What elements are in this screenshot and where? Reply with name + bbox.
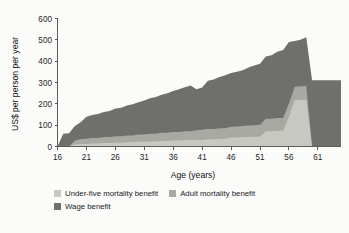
y-axis-tick-label: 200 <box>38 100 52 109</box>
legend-label: Adult mortality benefit <box>180 188 255 199</box>
legend-item-under-five-mortality-benefit[interactable]: Under-five mortality benefit <box>54 188 158 199</box>
x-axis-tick-label: 56 <box>284 153 294 162</box>
legend-row-2: Wage benefit <box>54 201 346 212</box>
x-axis-tick-label: 16 <box>53 153 63 162</box>
chart-areas <box>58 37 342 146</box>
x-axis-tick-label: 21 <box>82 153 92 162</box>
legend-item-wage-benefit[interactable]: Wage benefit <box>54 201 111 212</box>
x-axis-tick-label: 26 <box>111 153 121 162</box>
y-axis-tick-label: 500 <box>38 36 52 45</box>
y-axis-tick-label: 100 <box>38 121 52 130</box>
legend-label: Wage benefit <box>65 201 111 212</box>
x-axis-title: Age (years) <box>171 170 216 180</box>
x-axis-tick-label: 61 <box>313 153 323 162</box>
legend-row-1: Under-five mortality benefit Adult morta… <box>54 188 346 199</box>
legend-label: Under-five mortality benefit <box>65 188 158 199</box>
y-axis-tick-label: 0 <box>47 143 52 152</box>
y-axis-tick-label: 600 <box>38 15 52 24</box>
x-axis-tick-label: 36 <box>169 153 179 162</box>
legend-swatch-icon <box>54 190 61 197</box>
y-axis-tick-label: 300 <box>38 79 52 88</box>
y-axis-tick-label: 400 <box>38 57 52 66</box>
legend-swatch-icon <box>54 203 61 210</box>
legend-item-adult-mortality-benefit[interactable]: Adult mortality benefit <box>169 188 255 199</box>
chart-legend: Under-five mortality benefit Adult morta… <box>54 188 346 214</box>
x-axis-tick-label: 51 <box>255 153 265 162</box>
x-axis-tick-label: 46 <box>227 153 237 162</box>
legend-swatch-icon <box>169 190 176 197</box>
y-axis-title: US$ per person per year <box>10 37 20 131</box>
x-axis-tick-label: 31 <box>140 153 150 162</box>
x-axis-tick-label: 41 <box>198 153 208 162</box>
chart-figure: 010020030040050060016212631364146515661 … <box>0 0 349 233</box>
